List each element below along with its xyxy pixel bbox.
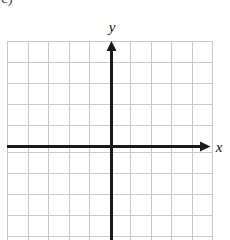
x-axis-label: x: [215, 139, 223, 155]
x-axis-arrow-icon: [200, 142, 211, 152]
y-axis-label: y: [107, 19, 116, 35]
coordinate-plane-svg: y x: [0, 0, 230, 240]
coordinate-plane-figure: c): [0, 0, 230, 240]
problem-label: c): [1, 0, 13, 6]
y-axis-arrow-icon: [107, 41, 117, 51]
x-axis: [7, 142, 211, 152]
y-axis: [107, 41, 117, 240]
grid-lines: [7, 41, 213, 240]
